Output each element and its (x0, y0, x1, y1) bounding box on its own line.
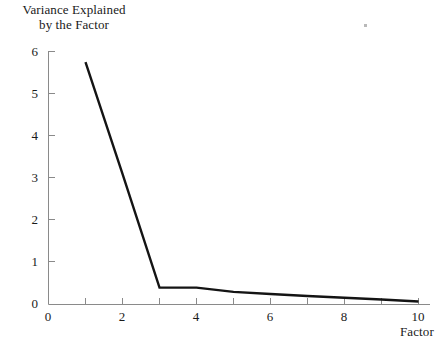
y-axis-ticks (49, 52, 56, 262)
chart-canvas (0, 0, 447, 346)
page-speck (364, 24, 367, 27)
scree-data-line (86, 62, 419, 302)
scree-plot-chart: Variance Explained by the Factor Factor … (0, 0, 447, 346)
